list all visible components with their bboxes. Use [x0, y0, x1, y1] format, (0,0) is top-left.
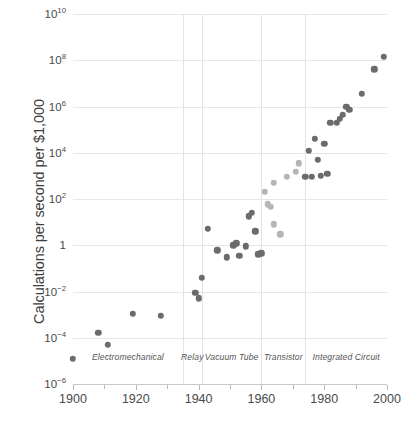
era-divider-line — [202, 14, 203, 384]
y-axis-tick-label: 10−6 — [44, 378, 66, 390]
data-point — [296, 160, 302, 166]
gridline-horizontal — [73, 199, 387, 200]
plot-area — [73, 14, 387, 384]
data-point — [312, 136, 318, 142]
gridline-horizontal — [73, 153, 387, 154]
data-point — [268, 204, 274, 210]
y-axis-tick-label: 10−2 — [44, 286, 66, 298]
y-axis-tick-label: 108 — [49, 54, 66, 66]
era-label: Vacuum Tube — [205, 352, 259, 362]
data-point — [324, 171, 330, 177]
data-point — [236, 253, 242, 259]
x-axis-tick-label: 1940 — [185, 392, 213, 406]
data-point — [277, 231, 283, 237]
y-axis-tick-label: 102 — [49, 193, 66, 205]
gridline-horizontal — [73, 107, 387, 108]
x-axis-tick-label: 1960 — [247, 392, 275, 406]
data-point — [381, 54, 387, 60]
y-axis-tick-labels: 1010108106104102110−210−410−6 — [28, 14, 66, 384]
data-point — [315, 157, 321, 163]
era-divider-line — [305, 14, 306, 384]
x-axis-minor-tick-mark — [356, 385, 357, 389]
data-point — [271, 221, 277, 227]
data-point — [252, 228, 258, 234]
x-axis-tick-mark — [73, 385, 74, 390]
data-point — [104, 342, 110, 348]
data-point — [308, 174, 314, 180]
x-axis-tick-mark — [261, 385, 262, 390]
x-axis-minor-tick-mark — [167, 385, 168, 389]
data-point — [261, 189, 267, 195]
data-point — [224, 254, 230, 260]
era-divider-line — [183, 14, 184, 384]
x-axis-minor-tick-mark — [104, 385, 105, 389]
x-axis-tick-mark — [324, 385, 325, 390]
scatter-chart: Calculations per second per $1,000 10101… — [0, 0, 412, 423]
data-point — [205, 226, 211, 232]
x-axis-tick-label: 1920 — [122, 392, 150, 406]
gridline-horizontal — [73, 60, 387, 61]
data-point — [371, 66, 377, 72]
era-label: Integrated Circuit — [313, 352, 380, 362]
gridline-horizontal — [73, 338, 387, 339]
data-point — [359, 91, 365, 97]
data-point — [340, 111, 346, 117]
y-axis-tick-label: 1 — [60, 239, 66, 251]
era-labels: ElectromechanicalRelayVacuum TubeTransis… — [73, 352, 387, 366]
y-axis-tick-label: 10−4 — [44, 332, 66, 344]
x-axis-tick-mark — [199, 385, 200, 390]
data-point — [258, 250, 264, 256]
data-point — [283, 174, 289, 180]
data-point — [214, 247, 220, 253]
era-label: Relay — [181, 352, 203, 362]
y-axis-tick-label: 106 — [49, 101, 66, 113]
data-point — [199, 274, 205, 280]
x-axis-tick-labels: 190019201940196019802000 — [73, 392, 387, 412]
gridline-horizontal — [73, 14, 387, 15]
data-point — [158, 312, 164, 318]
x-axis-minor-tick-mark — [230, 385, 231, 389]
data-point — [271, 180, 277, 186]
y-axis-tick-label: 1010 — [45, 8, 66, 20]
x-axis-tick-mark — [387, 385, 388, 390]
data-point — [346, 107, 352, 113]
era-divider-line — [261, 14, 262, 384]
data-point — [249, 210, 255, 216]
x-axis-tick-label: 1900 — [59, 392, 87, 406]
x-axis-tick-label: 1980 — [310, 392, 338, 406]
data-point — [321, 140, 327, 146]
x-axis-tick-label: 2000 — [373, 392, 401, 406]
gridline-horizontal — [73, 292, 387, 293]
era-label: Electromechanical — [92, 352, 164, 362]
x-axis-tick-marks — [73, 385, 387, 391]
data-point — [293, 169, 299, 175]
y-axis-tick-label: 104 — [49, 147, 66, 159]
data-point — [95, 330, 101, 336]
data-point — [129, 310, 135, 316]
era-label: Transistor — [264, 352, 303, 362]
x-axis-tick-mark — [136, 385, 137, 390]
data-point — [242, 243, 248, 249]
x-axis-minor-tick-mark — [293, 385, 294, 389]
